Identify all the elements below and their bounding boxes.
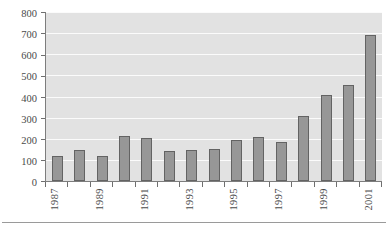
x-axis-ticks [45,182,381,187]
bar-slot [270,12,292,181]
y-axis-tick-label: 700 [21,29,41,40]
x-axis-tick-mark [67,182,68,187]
y-axis-tick: 0 [32,175,45,187]
bar-1991[interactable] [141,138,152,181]
y-axis-tick-label: 300 [21,114,41,125]
bar-slot [248,12,270,181]
x-axis-tick-label: 1999 [318,188,329,211]
y-axis: 0100200300400500600700800 [0,12,45,181]
y-axis-tick-label: 800 [21,8,41,19]
y-axis-tick-label: 500 [21,71,41,82]
x-axis-tick-mark [135,182,136,187]
bar-1996[interactable] [253,137,264,181]
bar-slot [68,12,90,181]
x-axis-tick-label: 1987 [49,188,60,211]
bar-2000[interactable] [343,85,354,181]
x-axis-tick-label: 1989 [94,188,105,211]
x-axis-tick-label: 1997 [273,188,284,211]
bar-chart-figure: 0100200300400500600700800 19871989199119… [0,0,388,232]
bar-slot [180,12,202,181]
bar-slot [91,12,113,181]
y-axis-tick-label: 100 [21,156,41,167]
x-axis-tick-mark [224,182,225,187]
y-axis-tick-label: 400 [21,93,41,104]
bar-1998[interactable] [298,116,309,181]
bar-1992[interactable] [164,151,175,181]
x-axis-tick-label: 2001 [363,188,374,211]
y-axis-tick: 100 [21,154,45,166]
y-axis-tick-label: 200 [21,135,41,146]
bar-slot [360,12,382,181]
x-axis-tick-mark [359,182,360,187]
bar-slot [292,12,314,181]
bar-1994[interactable] [209,149,220,181]
x-axis-tick-mark [90,182,91,187]
bar-1988[interactable] [74,150,85,181]
x-axis-tick-mark [269,182,270,187]
x-axis-tick-mark [202,182,203,187]
bar-slot [225,12,247,181]
bottom-divider [2,222,386,223]
y-axis-tick: 400 [21,91,45,103]
bar-1997[interactable] [276,142,287,182]
y-axis-tick-label: 0 [32,177,41,188]
bar-1995[interactable] [231,140,242,181]
plot-area [45,12,382,182]
x-axis-tick-mark [247,182,248,187]
x-axis-tick-mark [112,182,113,187]
x-axis-tick-mark [157,182,158,187]
bar-slot [203,12,225,181]
x-axis-tick-mark [336,182,337,187]
bar-1987[interactable] [52,156,63,181]
bar-series [46,12,382,181]
x-axis-tick-mark [314,182,315,187]
x-axis-tick-label: 1995 [228,188,239,211]
x-axis-tick-mark [179,182,180,187]
y-axis-tick: 700 [21,27,45,39]
y-axis-tick: 300 [21,112,45,124]
x-axis-tick-mark [45,182,46,187]
bar-slot [158,12,180,181]
bar-1989[interactable] [97,156,108,181]
bar-slot [337,12,359,181]
x-axis-tick-mark [381,182,382,187]
bar-1999[interactable] [321,95,332,181]
y-axis-tick: 500 [21,69,45,81]
y-axis-tick-label: 600 [21,50,41,61]
bar-1990[interactable] [119,136,130,181]
y-axis-tick: 200 [21,133,45,145]
x-axis-tick-label: 1991 [139,188,150,211]
bar-1993[interactable] [186,150,197,181]
x-axis-tick-label: 1993 [184,188,195,211]
y-axis-tick: 800 [21,6,45,18]
bar-2001[interactable] [365,35,376,181]
bar-slot [46,12,68,181]
x-axis-tick-mark [291,182,292,187]
bar-slot [113,12,135,181]
bar-slot [315,12,337,181]
y-axis-tick: 600 [21,48,45,60]
bar-slot [136,12,158,181]
